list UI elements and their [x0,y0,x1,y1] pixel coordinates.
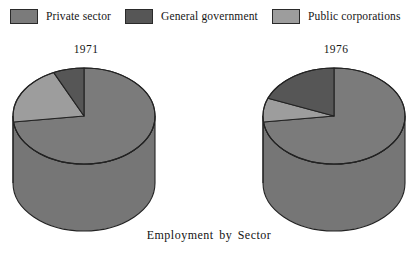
pie-1976-graphic [236,40,418,250]
legend-label-private-sector: Private sector [46,10,111,23]
legend-item-private-sector: Private sector [10,9,111,24]
pie-1971-graphic [0,40,186,250]
legend-swatch-private-sector [10,9,38,24]
chart-caption: Employment by Sector [0,228,418,243]
legend-swatch-general-government [125,9,153,24]
legend-label-general-government: General government [161,10,258,23]
legend-item-general-government: General government [125,9,258,24]
pie-chart-1971: 1971 [0,40,186,250]
pie-chart-1976: 1976 [236,40,418,250]
legend-swatch-public-corporations [272,9,300,24]
legend-label-public-corporations: Public corporations [308,10,401,23]
employment-by-sector-figure: Private sector General government Public… [0,0,418,260]
legend-item-public-corporations: Public corporations [272,9,401,24]
legend: Private sector General government Public… [0,0,418,34]
